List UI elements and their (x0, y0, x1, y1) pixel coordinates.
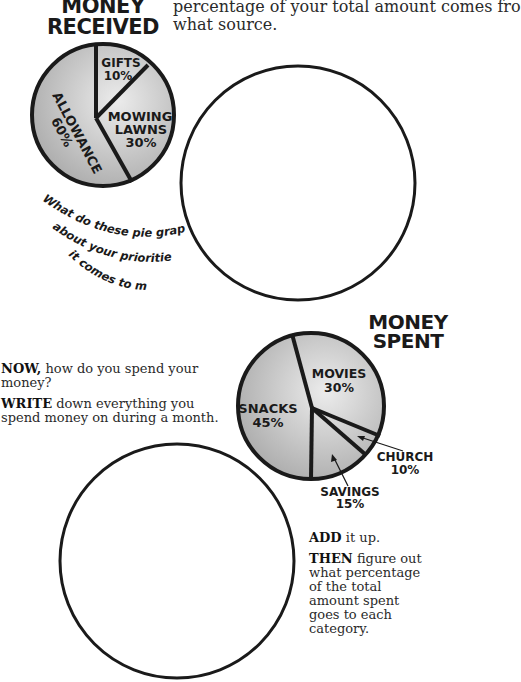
title-line: SPENT (358, 332, 458, 351)
money-spent-title: MONEY SPENT (358, 313, 458, 351)
label-gifts-pct: 10% (104, 69, 133, 83)
svg-text:30%: 30% (125, 135, 156, 150)
write-paragraph: WRITE down everything you spend money on… (1, 397, 226, 425)
svg-text:30%: 30% (324, 380, 354, 395)
svg-text:CHURCH: CHURCH (377, 450, 434, 464)
svg-text:10%: 10% (391, 463, 420, 477)
svg-text:15%: 15% (336, 497, 365, 511)
label-gifts: GIFTS (101, 56, 140, 70)
svg-text:SNACKS: SNACKS (238, 401, 297, 416)
money-received-pie: GIFTS 10% MOWING LAWNS 30% ALLOWANCE 60% (32, 44, 174, 186)
add-paragraph: ADD it up. (309, 531, 429, 545)
then-paragraph: THEN figure out what percentage of the t… (309, 552, 429, 636)
blank-spent-circle (60, 444, 294, 678)
blank-received-circle (181, 66, 415, 300)
svg-text:MOVIES: MOVIES (312, 366, 367, 381)
now-paragraph: NOW, how do you spend your money? (1, 362, 226, 390)
instructions-right: ADD it up. THEN figure out what percenta… (309, 531, 429, 636)
instructions-left: NOW, how do you spend your money? WRITE … (1, 362, 226, 425)
svg-text:45%: 45% (252, 415, 283, 430)
